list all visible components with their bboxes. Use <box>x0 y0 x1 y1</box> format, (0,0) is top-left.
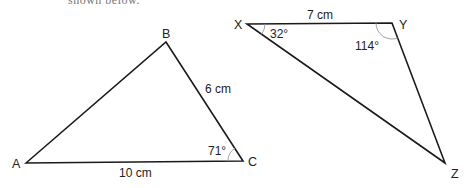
angle-arc-x <box>262 24 265 34</box>
triangles-figure: A B C 6 cm 10 cm 71° X Y Z 7 cm 32° 114° <box>0 0 468 188</box>
vertex-label-z: Z <box>451 167 459 181</box>
angle-label-c: 71° <box>208 144 226 158</box>
triangle-xyz-outline <box>247 23 445 163</box>
angle-label-x: 32° <box>270 27 288 41</box>
triangle-xyz: X Y Z 7 cm 32° 114° <box>234 8 459 181</box>
vertex-label-b: B <box>162 27 170 41</box>
angle-arc-c <box>228 148 235 161</box>
side-label-ac: 10 cm <box>119 166 152 180</box>
vertex-label-c: C <box>248 155 257 169</box>
vertex-label-x: X <box>234 18 243 32</box>
angle-label-y: 114° <box>355 39 379 53</box>
vertex-label-a: A <box>12 157 21 171</box>
diagram-canvas: shown below. A B C 6 cm 10 cm 71° X Y Z … <box>0 0 468 188</box>
side-label-bc: 6 cm <box>205 82 231 96</box>
triangle-abc: A B C 6 cm 10 cm 71° <box>12 27 257 180</box>
vertex-label-y: Y <box>399 18 408 32</box>
side-label-xy: 7 cm <box>307 8 333 22</box>
